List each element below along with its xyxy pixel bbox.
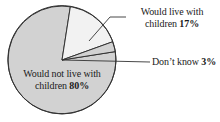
label-dont-know-value: 3%: [201, 56, 216, 67]
pie-chart-figure: Would live with children 17% Don’t know …: [0, 0, 220, 122]
label-dont-know: Don’t know 3%: [152, 56, 216, 68]
label-live-value: 17%: [179, 18, 199, 29]
label-live-line1: Would live with: [141, 6, 204, 17]
label-notlive-line2: children 80%: [10, 80, 114, 92]
label-notlive-value: 80%: [69, 80, 89, 91]
label-would-not-live-with-children: Would not live with children 80%: [10, 68, 114, 91]
label-notlive-line1: Would not live with: [23, 68, 101, 79]
label-dont-know-text: Don’t know: [152, 56, 201, 67]
label-live-line2-text: children: [145, 18, 179, 29]
label-live-line2: children 17%: [128, 18, 216, 30]
label-notlive-line2-text: children: [35, 80, 69, 91]
label-would-live-with-children: Would live with children 17%: [128, 6, 216, 29]
